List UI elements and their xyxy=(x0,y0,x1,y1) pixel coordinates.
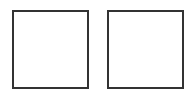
canvas xyxy=(0,0,189,99)
empty-box-1[interactable] xyxy=(12,10,89,89)
empty-box-2[interactable] xyxy=(107,10,184,89)
